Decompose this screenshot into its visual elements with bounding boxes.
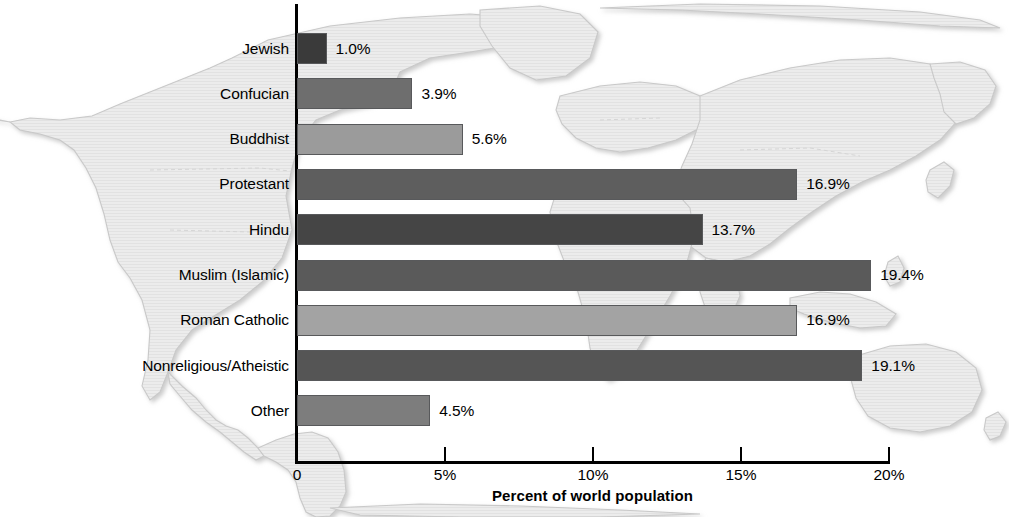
tick-label: 15% (701, 466, 781, 484)
bar (297, 214, 703, 245)
value-label: 19.1% (871, 357, 914, 375)
category-label: Muslim (Islamic) (0, 266, 289, 284)
bar (297, 78, 412, 109)
value-label: 16.9% (806, 175, 849, 193)
tick-mark (592, 447, 594, 462)
category-label: Hindu (0, 221, 289, 239)
category-label: Protestant (0, 175, 289, 193)
tick-label: 20% (849, 466, 929, 484)
value-label: 4.5% (439, 402, 474, 420)
x-axis-title: Percent of world population (295, 487, 890, 504)
tick-label: 5% (405, 466, 485, 484)
category-label: Buddhist (0, 130, 289, 148)
bar (297, 169, 797, 200)
category-label: Confucian (0, 85, 289, 103)
value-label: 1.0% (336, 40, 371, 58)
category-label: Other (0, 402, 289, 420)
bar (297, 33, 327, 64)
bar (297, 305, 797, 336)
bar (297, 260, 871, 291)
tick-mark (444, 447, 446, 462)
tick-label: 0 (257, 466, 337, 484)
value-label: 16.9% (806, 311, 849, 329)
tick-label: 10% (553, 466, 633, 484)
bar (297, 350, 862, 381)
value-label: 19.4% (880, 266, 923, 284)
category-label: Nonreligious/Atheistic (0, 357, 289, 375)
religion-population-bar-chart: Jewish1.0%Confucian3.9%Buddhist5.6%Prote… (0, 0, 1009, 517)
category-label: Jewish (0, 40, 289, 58)
value-label: 3.9% (421, 85, 456, 103)
category-label: Roman Catholic (0, 311, 289, 329)
tick-mark (740, 447, 742, 462)
bar (297, 124, 463, 155)
value-label: 5.6% (472, 130, 507, 148)
tick-mark (888, 447, 890, 462)
bar (297, 395, 430, 426)
plot-area: Jewish1.0%Confucian3.9%Buddhist5.6%Prote… (0, 0, 1009, 517)
value-label: 13.7% (712, 221, 755, 239)
